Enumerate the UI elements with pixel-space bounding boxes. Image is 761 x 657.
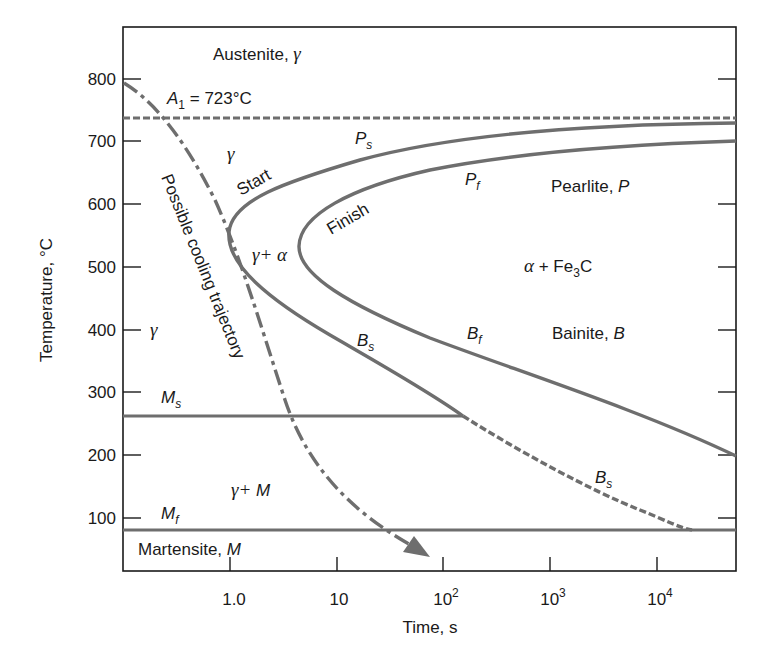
label-bf: Bf <box>467 324 483 347</box>
ttt-diagram: 800 700 600 500 400 300 200 100 1.0 10 1… <box>0 0 761 657</box>
y-tick-600: 600 <box>88 195 116 214</box>
y-tick-labels: 800 700 600 500 400 300 200 100 <box>88 70 116 528</box>
label-ps: Ps <box>355 129 372 152</box>
x-tick-1000: 103 <box>540 586 566 609</box>
y-tick-200: 200 <box>88 446 116 465</box>
label-gamma-upper: γ <box>227 143 235 164</box>
label-pf: Pf <box>465 170 481 193</box>
label-alpha-fe3c: α + Fe3C <box>524 255 592 280</box>
label-start: Start <box>234 165 275 200</box>
start-curve <box>229 123 736 416</box>
label-gamma-left: γ <box>150 319 158 340</box>
label-ms: Ms <box>161 388 181 411</box>
y-ticks-left <box>123 79 141 518</box>
cooling-arrowhead <box>403 536 430 557</box>
label-bainite: Bainite, B <box>552 324 625 343</box>
y-tick-800: 800 <box>88 70 116 89</box>
x-tick-1: 1.0 <box>222 590 246 609</box>
label-mf: Mf <box>161 504 180 527</box>
label-cooling-trajectory: Possible cooling trajectory <box>157 171 249 362</box>
y-tick-500: 500 <box>88 258 116 277</box>
bs-dashed-curve <box>463 416 692 530</box>
y-axis-title: Temperature, °C <box>37 238 56 362</box>
label-bs-lower: Bs <box>595 468 612 491</box>
label-austenite: Austenite, γ <box>213 43 301 64</box>
label-gamma-alpha: γ+ α <box>252 244 288 265</box>
label-martensite: Martensite, M <box>138 540 242 559</box>
y-tick-400: 400 <box>88 321 116 340</box>
cooling-trajectory <box>124 83 418 549</box>
label-gamma-m: γ+ M <box>231 479 271 500</box>
x-axis-title: Time, s <box>402 618 457 637</box>
label-a1: A1 = 723°C <box>166 89 252 112</box>
x-tick-10: 10 <box>330 590 349 609</box>
x-tick-10000: 104 <box>647 586 673 609</box>
y-tick-100: 100 <box>88 509 116 528</box>
x-tick-labels: 1.0 10 102 103 104 <box>222 586 673 609</box>
y-tick-300: 300 <box>88 383 116 402</box>
x-ticks <box>230 557 657 571</box>
finish-curve <box>299 141 736 456</box>
y-tick-700: 700 <box>88 132 116 151</box>
x-tick-100: 102 <box>433 586 459 609</box>
label-pearlite: Pearlite, P <box>551 177 630 196</box>
